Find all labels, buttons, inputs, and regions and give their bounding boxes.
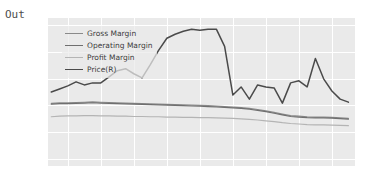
legend-item[interactable]: Price(R) [65, 64, 153, 75]
legend-item-label: Gross Margin [87, 29, 136, 39]
legend-line-swatch-icon [65, 69, 83, 70]
legend-item[interactable]: Gross Margin [65, 28, 153, 39]
legend-item[interactable]: Profit Margin [65, 52, 153, 63]
notebook-output-screenshot: Out -0.10.00.10.20.30.4 10203040506070 2… [0, 0, 384, 190]
plot-area: -0.10.00.10.20.30.4 10203040506070 20132… [48, 18, 355, 166]
legend-line-swatch-icon [65, 33, 83, 34]
notebook-output-prompt: Out [5, 8, 25, 21]
matplotlib-figure: -0.10.00.10.20.30.4 10203040506070 20132… [40, 6, 384, 190]
legend-item-label: Operating Margin [87, 41, 153, 51]
chart-legend: Gross MarginOperating MarginProfit Margi… [62, 26, 157, 78]
legend-item[interactable]: Operating Margin [65, 40, 153, 51]
legend-line-swatch-icon [65, 45, 83, 46]
legend-item-label: Profit Margin [87, 53, 135, 63]
legend-item-label: Price(R) [87, 65, 116, 75]
legend-line-swatch-icon [65, 57, 83, 58]
